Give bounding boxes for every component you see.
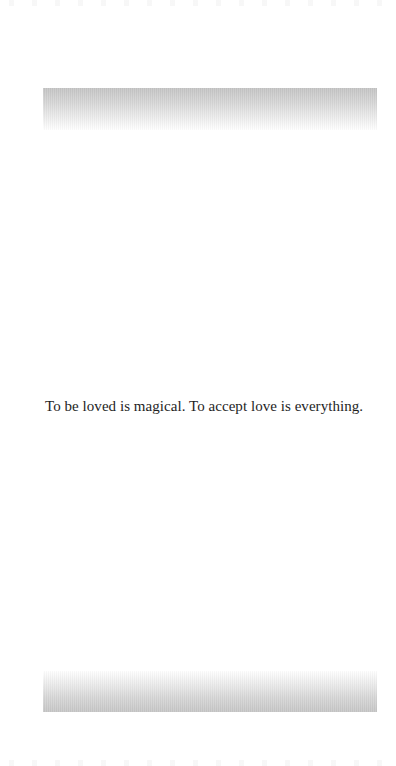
document-page: To be loved is magical. To accept love i… xyxy=(0,0,396,766)
scan-edge-top xyxy=(0,0,396,6)
scan-edge-bottom xyxy=(0,760,396,766)
quote-text: To be loved is magical. To accept love i… xyxy=(45,397,363,415)
bottom-gradient-band xyxy=(43,671,377,712)
top-gradient-band xyxy=(43,88,377,130)
